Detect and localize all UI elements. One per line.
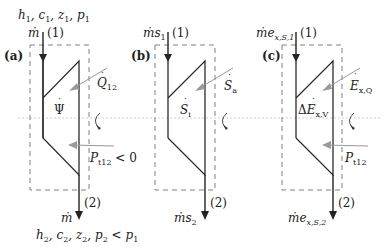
b-inlet-entropy-flow: ṁs1 [143,27,166,42]
c-point-2: (2) [338,197,355,209]
a-outlet-state-label: h2, c2, z2, p2 < p1 [36,229,138,244]
a-panel-tag: (a) [4,50,23,62]
c-inlet-exergy-flow: ṁex,S,1 [256,27,294,42]
c-outlet-exergy-flow: ṁex,S,2 [288,212,326,227]
b-point-2: (2) [210,197,227,209]
a-psi-dot: ˙ [57,97,62,107]
b-sa-dot: ˙ [227,73,232,83]
panel-b [155,32,233,220]
panel-c [282,32,368,220]
a-outlet-mass-flow: ṁ [61,212,72,224]
c-point-1: (1) [300,27,317,39]
b-si-dot: ˙ [183,97,188,107]
a-point-2: (2) [84,197,101,209]
c-heat-exergy-label: Ex,Q [350,80,372,95]
a-work-label: Pt12 < 0 [90,152,137,167]
b-outlet-entropy-flow: ṁs2 [174,212,197,227]
a-point-1: (1) [47,27,64,39]
c-work-label: Pt12 [345,152,366,167]
b-panel-tag: (b) [131,50,151,62]
c-ev-dot: ˙ [311,97,316,107]
c-panel-tag: (c) [262,50,281,62]
panel-a [30,32,114,220]
a-heat-dot: ˙ [100,71,105,81]
control-volume-a [30,45,89,190]
b-point-1: (1) [172,27,189,39]
c-eq-dot: ˙ [353,72,358,82]
a-inlet-state-label: h1, c1, z1, p1 [18,9,90,24]
a-inlet-mass-flow: ṁ [28,27,39,39]
